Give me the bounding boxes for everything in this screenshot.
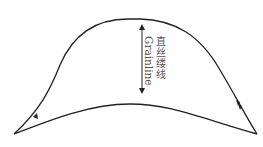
pattern-outline-bottom xyxy=(14,104,257,134)
pattern-piece-diagram xyxy=(0,0,263,147)
arrow-down-icon xyxy=(139,88,145,94)
pattern-outline-top xyxy=(14,19,257,134)
arrow-up-icon xyxy=(139,24,145,30)
grainline-label-cn: 直丝缕线 xyxy=(154,36,165,80)
grainline-label-en: Grainline xyxy=(143,36,154,85)
